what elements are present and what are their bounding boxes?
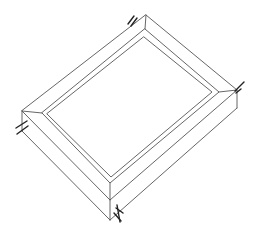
frame-drawing <box>0 0 262 241</box>
frame-diagram <box>0 0 262 241</box>
miter-top <box>145 15 146 29</box>
frame-inner-edge <box>42 29 219 183</box>
frame-inner-opening <box>47 37 212 177</box>
frame-outer-top <box>22 15 237 200</box>
miter-left <box>22 111 42 113</box>
fastener-bottom-icon <box>114 205 123 222</box>
fastener-top-icon <box>128 16 137 26</box>
fastener-right-icon <box>235 82 244 93</box>
side-lower-left-edge <box>22 131 110 220</box>
